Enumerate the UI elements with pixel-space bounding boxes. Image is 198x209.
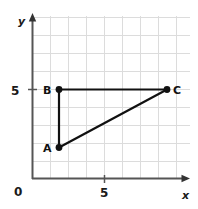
axis-ticks (28, 90, 105, 184)
x-axis-label: x (181, 189, 190, 202)
vertex-label-a: A (43, 142, 52, 155)
x-axis (32, 175, 190, 182)
segment-ac (59, 90, 167, 148)
triangle-abc (59, 90, 167, 148)
vertical-gridlines (51, 16, 177, 179)
vertex-label-c: C (173, 84, 181, 97)
y-tick-label-5: 5 (11, 84, 19, 98)
coordinate-plane-figure: y x 5 5 0 A B C (0, 0, 198, 209)
x-tick-label-5: 5 (100, 186, 108, 200)
y-axis-label: y (18, 15, 26, 28)
vertex-point-c (164, 86, 171, 93)
vertex-label-b: B (43, 84, 51, 97)
x-axis-arrow-icon (182, 175, 191, 182)
coordinate-plane-svg: y x 5 5 0 A B C (0, 0, 198, 209)
vertex-point-b (56, 86, 63, 93)
y-axis (29, 13, 36, 179)
vertex-point-a (56, 144, 63, 151)
origin-label: 0 (14, 185, 22, 199)
